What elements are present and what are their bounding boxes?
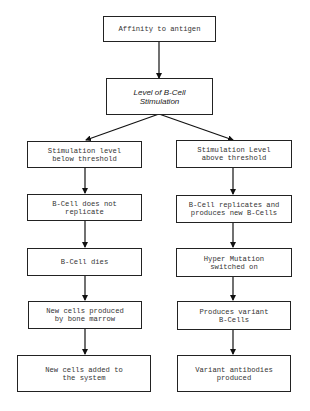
node-b-cell-does-not-replicate: B-Cell does not replicate [27,194,142,221]
node-hyper-mutation-switched-on: Hyper Mutation switched on [176,248,292,277]
node-new-cells-produced-by-bone-marrow: New cells produced by bone marrow [28,301,142,329]
node-affinity-to-antigen: Affinity to antigen [103,16,216,42]
node-b-cell-dies: B-Cell dies [27,248,142,276]
flowchart-canvas: Affinity to antigen Level of B-Cell Stim… [0,0,310,411]
node-stimulation-above-threshold: Stimulation Level above threshold [176,140,292,168]
node-variant-antibodies-produced: Variant antibodies produced [177,355,291,392]
node-new-cells-added-to-system: New cells added to the system [17,355,151,392]
node-b-cell-replicates: B-Cell replicates and produces new B-Cel… [176,195,292,223]
arrow-decision-to-above-threshold [159,114,233,140]
node-produces-variant-b-cells: Produces variant B-Cells [177,301,291,330]
arrow-decision-to-below-threshold [86,114,159,140]
node-stimulation-below-threshold: Stimulation level below threshold [27,141,142,168]
node-level-of-b-cell-stimulation: Level of B-Cell Stimulation [106,78,213,115]
